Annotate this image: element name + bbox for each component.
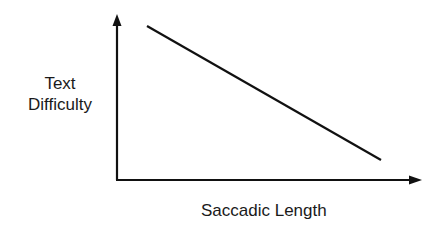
- y-axis-label-line-2: Difficulty: [12, 94, 108, 115]
- y-axis: [113, 14, 122, 180]
- y-axis-arrow-icon: [113, 14, 122, 26]
- y-axis-label-line-1: Text: [12, 73, 108, 94]
- trend-line: [147, 26, 381, 160]
- y-axis-label: Text Difficulty: [12, 73, 108, 115]
- x-axis-arrow-icon: [409, 176, 422, 185]
- x-axis-label: Saccadic Length: [201, 200, 327, 222]
- x-axis: [116, 176, 422, 185]
